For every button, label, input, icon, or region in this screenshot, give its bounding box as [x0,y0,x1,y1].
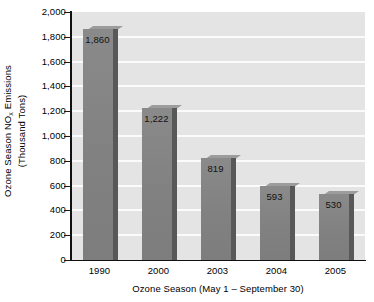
y-axis-tick-labels: 02004006008001,0001,2001,4001,6001,8002,… [28,0,66,270]
x-axis-title: Ozone Season (May 1 – September 30) [70,283,366,294]
y-axis-tick-mark [64,235,71,236]
y-axis-tick-label: 1,400 [28,81,66,91]
y-axis-tick-label: 1,600 [28,57,66,67]
y-axis-tick-label: 0 [28,255,66,265]
x-axis-tick-label: 2004 [247,265,307,276]
bar-side-face [172,108,177,260]
x-axis-tick-label: 2003 [188,265,248,276]
bar: 1,222 [142,108,172,260]
y-axis-tick-mark [64,12,71,13]
y-axis-tick-label: 1,800 [28,32,66,42]
x-axis-tick-label: 1990 [70,265,130,276]
bar-front-face [142,108,172,260]
bar-side-face [349,194,354,260]
y-axis-tick-mark [64,186,71,187]
y-axis-tick-mark [64,161,71,162]
bar-value-label: 530 [319,200,349,210]
bar: 593 [260,186,290,260]
y-axis-tick-mark [64,210,71,211]
x-axis-line [70,260,366,262]
bar-front-face [83,29,113,260]
y-axis-tick-label: 400 [28,205,66,215]
y-axis-tick-label: 2,000 [28,7,66,17]
y-axis-tick-mark [64,136,71,137]
plot-area: 1,8601,222819593530 [70,12,365,260]
y-axis-tick-mark [64,86,71,87]
bar: 1,860 [83,29,113,260]
y-axis-tick-mark [64,62,71,63]
y-axis-title: Ozone Season NOx Emissions (Thousand Ton… [2,65,28,197]
bar-value-label: 819 [201,164,231,174]
y-axis-tick-mark [64,111,71,112]
x-axis-tick-label: 2005 [306,265,366,276]
y-axis-tick-label: 200 [28,230,66,240]
y-axis-tick-label: 1,000 [28,131,66,141]
bar-value-label: 1,860 [83,35,113,45]
bar: 530 [319,194,349,260]
y-axis-title-line1-head: Ozone Season NO [2,116,13,197]
bar: 819 [201,158,231,260]
x-axis-tick-label: 2000 [129,265,189,276]
y-axis-tick-mark [64,37,71,38]
y-axis-title-line1-tail: Emissions [2,65,13,112]
y-axis-tick-label: 1,200 [28,106,66,116]
y-axis-tick-label: 800 [28,156,66,166]
y-axis-tick-label: 600 [28,181,66,191]
bar-side-face [113,29,118,260]
y-axis-tick-mark [64,260,71,261]
y-axis-title-container: Ozone Season NOx Emissions (Thousand Ton… [0,0,30,262]
bar-chart-figure: Ozone Season NOx Emissions (Thousand Ton… [0,0,374,302]
y-axis-title-subscript: x [7,112,14,116]
bar-side-face [290,186,295,260]
bar-side-face [231,158,236,260]
bar-value-label: 593 [260,192,290,202]
bar-value-label: 1,222 [142,114,172,124]
y-axis-title-line2: (Thousand Tons) [16,65,28,197]
